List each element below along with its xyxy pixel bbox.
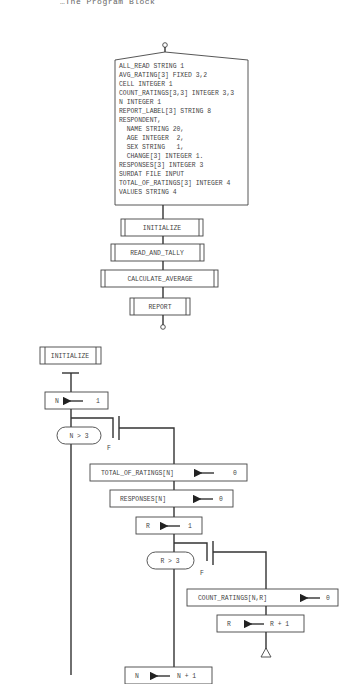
declaration-line: CELL INTEGER 1 (119, 81, 173, 88)
assign-r-increment: R R + 1 (217, 615, 304, 632)
declaration-line: AGE INTEGER 2, (119, 135, 184, 142)
assign-count-init: COUNT_RATINGS[N,R] 0 (187, 589, 338, 606)
false-label: F (107, 445, 111, 452)
assign-n-increment: N N + 1 (125, 667, 212, 684)
assign-rhs: R + 1 (270, 621, 289, 628)
assign-lhs: R (146, 523, 150, 530)
declaration-line: RESPONSES[3] INTEGER 3 (119, 162, 204, 169)
declaration-line: N INTEGER 1 (119, 99, 161, 106)
declaration-line: ALL_READ STRING 1 (119, 63, 184, 70)
module-report[interactable]: REPORT (130, 298, 190, 315)
exit-connector-icon (161, 325, 166, 330)
module-initialize[interactable]: INITIALIZE (121, 219, 203, 236)
declaration-line: CHANGE[3] INTEGER 1. (119, 153, 203, 160)
initialize-block: INITIALIZE N 1 N > 3 F TOTAL_OF_RATINGS[… (40, 347, 338, 684)
module-read-and-tally[interactable]: READ_AND_TALLY (111, 244, 204, 261)
declaration-line: COUNT_RATINGS[3,3] INTEGER 3,3 (119, 90, 234, 97)
assign-lhs: RESPONSES[N] (120, 496, 166, 503)
assign-rhs: 0 (326, 595, 330, 602)
module-label: REPORT (148, 304, 171, 311)
declaration-line: REPORT_LABEL[3] STRING 8 (119, 108, 211, 115)
condition-text: N > 3 (69, 433, 88, 440)
assign-n-init: N 1 (45, 392, 108, 409)
loop-condition-outer: N > 3 F (57, 416, 174, 464)
assign-lhs: TOTAL_OF_RATINGS[N] (101, 470, 174, 477)
assign-rhs: 1 (96, 398, 100, 405)
module-label: INITIALIZE (143, 225, 182, 232)
assign-lhs: R (227, 621, 231, 628)
declaration-line: NAME STRING 20, (119, 126, 184, 133)
assign-rhs: 0 (219, 496, 223, 503)
loop-return-triangle-icon (261, 648, 271, 657)
declaration-line: AVG_RATING[3] FIXED 3,2 (119, 72, 207, 79)
condition-text: R > 3 (160, 558, 179, 565)
assign-r-init: R 1 (136, 517, 202, 534)
initialize-title-box: INITIALIZE (40, 347, 101, 364)
assign-rhs: 1 (188, 523, 192, 530)
assign-lhs: COUNT_RATINGS[N,R] (198, 595, 267, 602)
false-label: F (200, 570, 204, 577)
assign-lhs: N (135, 673, 139, 680)
module-label: CALCULATE_AVERAGE (127, 276, 192, 283)
assign-rhs: N + 1 (177, 673, 196, 680)
declaration-line: VALUES STRING 4 (119, 189, 177, 196)
declaration-line: SURDAT FILE INPUT (119, 171, 184, 178)
module-label: READ_AND_TALLY (130, 250, 184, 257)
block-title: INITIALIZE (51, 353, 90, 360)
loop-condition-inner: R > 3 F (147, 541, 266, 589)
declaration-line: RESPONDENT, (119, 117, 161, 124)
module-calculate-average[interactable]: CALCULATE_AVERAGE (101, 270, 218, 287)
entry-connector-icon (163, 43, 168, 48)
assign-rhs: 0 (233, 470, 237, 477)
assign-responses-init: RESPONSES[N] 0 (110, 490, 233, 507)
declaration-line: TOTAL_OF_RATINGS[3] INTEGER 4 (119, 180, 230, 187)
assign-lhs: N (55, 398, 59, 405)
flowchart-diagram: ALL_READ STRING 1 AVG_RATING[3] FIXED 3,… (0, 0, 344, 684)
main-block: ALL_READ STRING 1 AVG_RATING[3] FIXED 3,… (101, 43, 248, 330)
declaration-line: SEX STRING 1, (119, 144, 184, 151)
assign-total-init: TOTAL_OF_RATINGS[N] 0 (90, 464, 247, 481)
